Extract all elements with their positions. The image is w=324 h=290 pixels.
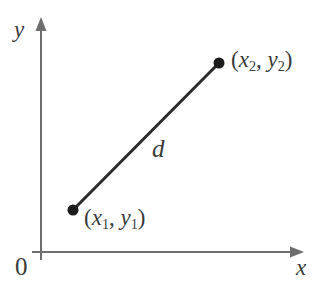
point-1-dot xyxy=(68,205,79,216)
point-1-comma: , xyxy=(109,205,121,230)
point-2-y-subscript: 2 xyxy=(278,58,285,74)
point-1-x-variable: x xyxy=(92,205,102,230)
point-2-coordinate-label: (x2, y2) xyxy=(231,48,293,71)
point-1-x-subscript: 1 xyxy=(102,216,109,232)
point-2-comma: , xyxy=(256,47,268,72)
origin-label: 0 xyxy=(15,254,28,279)
point-2-x-subscript: 2 xyxy=(249,58,256,74)
point-1-close-paren: ) xyxy=(138,205,146,230)
distance-formula-diagram: y x 0 d (x1, y1) (x2, y2) xyxy=(0,0,324,290)
point-2-close-paren: ) xyxy=(285,47,293,72)
point-1-y-variable: y xyxy=(121,205,131,230)
y-axis-arrowhead-icon xyxy=(36,17,47,31)
point-1-open-paren: ( xyxy=(84,205,92,230)
distance-segment xyxy=(73,63,219,210)
point-2-y-variable: y xyxy=(268,47,278,72)
point-2-x-variable: x xyxy=(239,47,249,72)
point-2-open-paren: ( xyxy=(231,47,239,72)
point-2-dot xyxy=(214,58,225,69)
distance-label: d xyxy=(152,136,165,161)
point-1-coordinate-label: (x1, y1) xyxy=(84,206,146,229)
point-1-y-subscript: 1 xyxy=(131,216,138,232)
y-axis-label: y xyxy=(14,18,24,41)
x-axis-label: x xyxy=(296,256,306,279)
